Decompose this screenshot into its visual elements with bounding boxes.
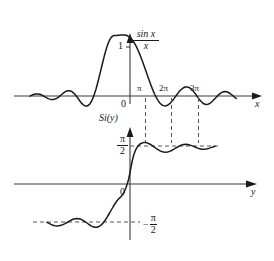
si-upper-asymptote-numerator: π <box>117 134 128 146</box>
sinc-xtick-3pi: 3π <box>190 84 199 93</box>
sinc-x-axis-label: x <box>255 99 259 109</box>
si-lower-asymptote-sign: − <box>143 219 149 230</box>
si-upper-asymptote-label: π 2 <box>117 134 128 156</box>
sinc-function-denominator: x <box>133 41 159 52</box>
sinc-origin-label: 0 <box>121 99 126 109</box>
si-lower-asymptote-numerator: π <box>150 213 157 225</box>
si-y-axis-label: y <box>251 187 255 197</box>
sinc-function-numerator: sin x <box>133 29 159 41</box>
sinc-y-tick-label: 1 <box>118 41 123 51</box>
si-upper-asymptote-denominator: 2 <box>117 146 128 157</box>
si-origin-label: 0 <box>120 187 125 197</box>
sinc-xtick-pi: π <box>137 84 142 93</box>
si-panel-group <box>14 127 257 240</box>
si-lower-asymptote-denominator: 2 <box>150 225 157 236</box>
si-lower-asymptote-label: − π 2 <box>143 213 157 235</box>
sinc-xtick-2pi: 2π <box>159 84 168 93</box>
sinc-function-label: sin x x <box>133 29 159 51</box>
si-curve <box>47 143 215 228</box>
si-function-label: Si(y) <box>99 113 118 123</box>
sinc-and-sine-integral-figure: sin x x 1 0 π 2π 3π x Si(y) π 2 0 − π 2 … <box>0 0 274 261</box>
